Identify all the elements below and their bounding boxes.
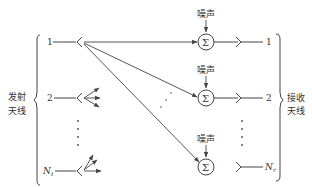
- tx-antenna-1: 1: [47, 37, 82, 47]
- tx-antenna-nt: Nt: [42, 155, 101, 177]
- rx-ellipsis: [241, 120, 243, 146]
- mimo-diagram: 发射 天线 1 2 Nt: [0, 0, 312, 187]
- rx-antenna-2-label: 2: [266, 93, 272, 103]
- transmit-group-label-line2: 天线: [8, 105, 26, 116]
- summing-node-2: 噪声 Σ: [197, 64, 215, 106]
- transmit-group-brace: [34, 35, 40, 185]
- rx-antenna-nr: Nr: [236, 162, 277, 173]
- sum-symbol-1: Σ: [202, 37, 209, 48]
- antenna-icon: [77, 37, 82, 47]
- receive-group-brace: [276, 34, 283, 181]
- tx-ellipsis: [77, 120, 79, 146]
- noise-label-2: 噪声: [197, 64, 215, 75]
- rx-antenna-2: 2: [214, 93, 272, 103]
- antenna-icon: [77, 93, 82, 103]
- tx-antenna-nt-label: Nt: [42, 166, 54, 177]
- rx-antenna-nr-label: Nr: [264, 162, 277, 173]
- tx-antenna-2: 2: [47, 88, 100, 107]
- tx-antenna-2-label: 2: [47, 93, 53, 103]
- tx-antenna-1-label: 1: [47, 37, 53, 47]
- noise-label-1: 噪声: [197, 8, 215, 19]
- sum-symbol-3: Σ: [202, 162, 209, 173]
- rx-antenna-1-label: 1: [266, 37, 272, 47]
- summing-node-1: 噪声 Σ: [197, 8, 215, 50]
- noise-label-3: 噪声: [197, 133, 215, 144]
- transmit-group-label-line1: 发射: [8, 91, 26, 102]
- sum-symbol-2: Σ: [202, 93, 209, 104]
- receive-group-label-line1: 接收: [287, 92, 305, 103]
- receive-group-label-line2: 天线: [287, 105, 305, 116]
- antenna-icon: [77, 166, 82, 176]
- antenna-icon: [236, 162, 241, 172]
- rx-antenna-1: 1: [214, 37, 272, 47]
- channel-paths: [84, 42, 199, 162]
- summing-node-3: 噪声 Σ: [197, 133, 215, 175]
